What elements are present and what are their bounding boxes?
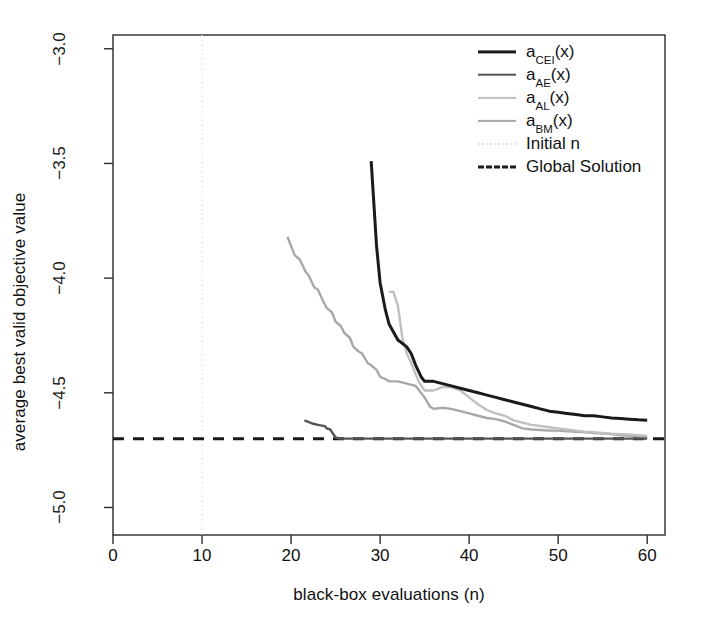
y-tick-label: −5.0 — [38, 497, 82, 517]
legend-label: aAE(x) — [526, 66, 571, 83]
x-tick-label: 30 — [371, 546, 390, 566]
legend-swatch-icon — [478, 91, 516, 105]
y-tick-label-text: −4.5 — [50, 371, 70, 415]
x-tick-label: 60 — [638, 546, 657, 566]
legend-label: aBM(x) — [526, 112, 573, 129]
y-tick-label-text: −5.0 — [50, 485, 70, 529]
y-tick-label: −4.5 — [38, 383, 82, 403]
legend-item: aAL(x) — [478, 86, 668, 109]
x-tick-label: 10 — [193, 546, 212, 566]
series-line-aceix — [371, 161, 647, 420]
legend-swatch-icon — [478, 68, 516, 82]
series-line-abmx — [288, 237, 648, 437]
legend-item: aAE(x) — [478, 63, 668, 86]
legend-label: Global Solution — [526, 158, 641, 175]
x-tick-label: 20 — [282, 546, 301, 566]
y-tick-label-text: −3.0 — [50, 27, 70, 71]
x-tick-label: 0 — [108, 546, 117, 566]
chart-legend: aCEI(x)aAE(x)aAL(x)aBM(x)Initial nGlobal… — [478, 40, 668, 178]
y-tick-label: −4.0 — [38, 268, 82, 288]
legend-label: Initial n — [526, 135, 580, 152]
legend-item: Global Solution — [478, 155, 668, 178]
legend-item: aBM(x) — [478, 109, 668, 132]
legend-item: aCEI(x) — [478, 40, 668, 63]
y-tick-label: −3.5 — [38, 153, 82, 173]
legend-label: aCEI(x) — [526, 43, 574, 60]
legend-swatch-icon — [478, 114, 516, 128]
legend-swatch-icon — [478, 45, 516, 59]
legend-swatch-icon — [478, 160, 516, 174]
legend-swatch-icon — [478, 137, 516, 151]
y-tick-label: −3.0 — [38, 39, 82, 59]
legend-item: Initial n — [478, 132, 668, 155]
chart-figure: average best valid objective value black… — [0, 0, 703, 644]
legend-label: aAL(x) — [526, 89, 569, 106]
x-tick-label: 50 — [549, 546, 568, 566]
y-tick-label-text: −4.0 — [50, 256, 70, 300]
x-tick-label: 40 — [460, 546, 479, 566]
series-line-aaex — [304, 420, 647, 438]
series-line-aalx — [389, 292, 647, 436]
y-tick-label-text: −3.5 — [50, 141, 70, 185]
